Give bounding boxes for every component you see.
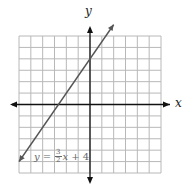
equation-rest: + 4: [71, 151, 89, 162]
line-end-arrow-icon: [108, 25, 114, 32]
equation-lhs: y: [34, 151, 40, 162]
equation-equals: =: [43, 151, 51, 162]
equation-variable: x: [63, 151, 69, 162]
line-start-arrow-icon: [19, 155, 25, 162]
y-axis-down-arrow-icon: [87, 177, 93, 184]
fraction-denominator: 2: [56, 157, 60, 164]
equation-label: y = 3 2 x + 4: [34, 149, 89, 164]
y-axis-label: y: [85, 4, 92, 18]
y-axis-up-arrow-icon: [87, 26, 93, 33]
coordinate-plane: [0, 0, 192, 189]
x-axis-right-arrow-icon: [163, 102, 170, 108]
equation-fraction: 3 2: [55, 149, 61, 164]
x-axis-left-arrow-icon: [10, 102, 17, 108]
x-axis-label: x: [175, 96, 182, 110]
